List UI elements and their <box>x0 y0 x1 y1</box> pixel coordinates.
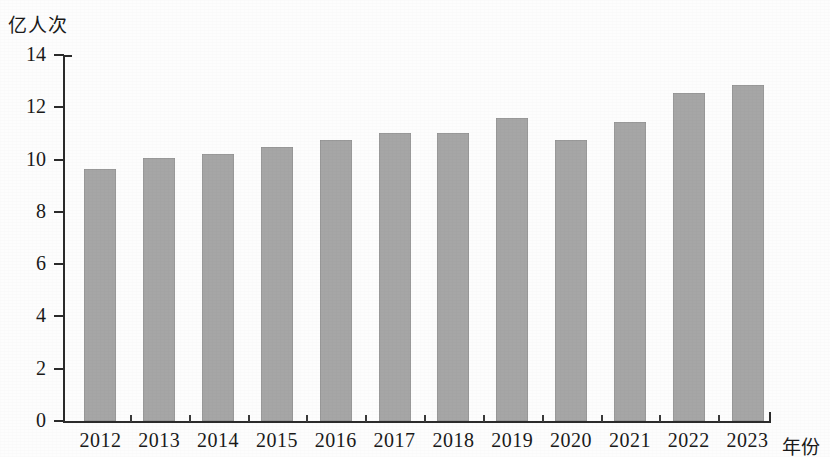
x-axis-tick <box>659 415 661 422</box>
x-axis-tick <box>189 415 191 422</box>
y-axis-tick <box>54 159 64 161</box>
x-axis-tick-label: 2023 <box>713 429 783 451</box>
bar <box>555 140 587 421</box>
y-axis-tick <box>54 368 64 370</box>
bar <box>673 93 705 421</box>
y-axis-title: 亿人次 <box>8 10 68 37</box>
x-axis-end-cap <box>769 412 771 423</box>
x-axis-tick <box>483 415 485 422</box>
y-axis-tick <box>54 54 64 56</box>
y-axis-tick <box>54 315 64 317</box>
x-axis-tick <box>424 415 426 422</box>
x-axis-tick <box>365 415 367 422</box>
y-axis-tick <box>54 106 64 108</box>
scan-grain-overlay <box>0 0 830 457</box>
bar <box>84 169 116 421</box>
y-axis-tick-label: 2 <box>4 358 46 378</box>
bar <box>261 147 293 422</box>
y-axis-tick <box>54 263 64 265</box>
y-axis-tick-label: 12 <box>4 96 46 116</box>
x-axis-title: 年份 <box>782 432 820 457</box>
y-axis-tick <box>54 211 64 213</box>
y-axis-tick-label: 8 <box>4 201 46 221</box>
y-axis-tick <box>54 420 64 422</box>
bar <box>143 158 175 421</box>
y-axis-tick-label: 6 <box>4 253 46 273</box>
bar-chart: 亿人次 年份 02468101214 201220132014201520162… <box>0 0 830 457</box>
y-axis-top-cap <box>63 55 72 57</box>
x-axis-line <box>63 421 771 423</box>
x-axis-tick <box>130 415 132 422</box>
y-axis-tick-label: 14 <box>4 44 46 64</box>
x-axis-tick <box>718 415 720 422</box>
bar <box>202 154 234 421</box>
bar <box>496 118 528 421</box>
x-axis-tick <box>542 415 544 422</box>
bar <box>732 85 764 421</box>
x-axis-tick <box>601 415 603 422</box>
bar <box>320 140 352 421</box>
y-axis-tick-label: 0 <box>4 410 46 430</box>
bar <box>614 122 646 421</box>
bar <box>379 133 411 421</box>
y-axis-tick-label: 4 <box>4 305 46 325</box>
x-axis-tick <box>248 415 250 422</box>
y-axis-tick-label: 10 <box>4 149 46 169</box>
bar <box>437 133 469 421</box>
x-axis-tick <box>306 415 308 422</box>
